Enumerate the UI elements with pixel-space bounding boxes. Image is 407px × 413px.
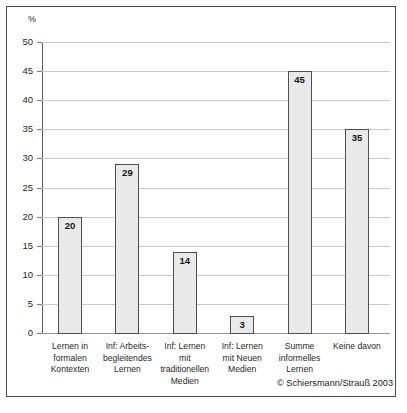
gridline — [42, 42, 390, 43]
bar-value-label: 35 — [345, 132, 369, 143]
x-axis-category-label: Lernen informalenKontexten — [40, 341, 100, 376]
chart-page: % 5045403530252015105020Lernen informale… — [0, 0, 407, 413]
x-axis-label-line: Medien — [212, 364, 272, 376]
x-axis-category-label: SummeinformellesLernen — [270, 341, 330, 376]
x-axis-label-line: Keine davon — [327, 341, 387, 353]
y-axis-tick-label: 35 — [7, 123, 33, 134]
gridline — [42, 304, 390, 305]
y-axis-tick-label: 20 — [7, 211, 33, 222]
y-axis-tick-mark — [37, 333, 42, 334]
copyright-credit: © Schiersmann/Strauß 2003 — [277, 378, 393, 388]
bar-value-label: 14 — [173, 255, 197, 266]
y-axis-tick-label: 30 — [7, 152, 33, 163]
y-axis-tick-mark — [37, 42, 42, 43]
x-axis-label-line: Inf: Lernen — [155, 341, 215, 353]
bar-value-label: 20 — [58, 220, 82, 231]
y-axis-tick-label: 40 — [7, 94, 33, 105]
bar — [345, 129, 369, 334]
x-axis-label-line: traditionellen — [155, 364, 215, 376]
bar — [288, 71, 312, 334]
x-axis-label-line: Summe — [270, 341, 330, 353]
y-axis-tick-mark — [37, 71, 42, 72]
y-axis-tick-mark — [37, 129, 42, 130]
x-axis-category-label: Inf: Arbeits-begleitendesLernen — [97, 341, 157, 376]
x-axis-label-line: mit — [155, 353, 215, 365]
x-axis-label-line: Inf: Lernen — [212, 341, 272, 353]
bar — [58, 217, 82, 334]
gridline — [42, 246, 390, 247]
x-axis-category-label: Keine davon — [327, 341, 387, 353]
gridline — [42, 100, 390, 101]
gridline — [42, 275, 390, 276]
gridline — [42, 333, 390, 334]
x-axis-category-label: Inf: LernenmittraditionellenMedien — [155, 341, 215, 387]
y-axis-tick-label: 45 — [7, 65, 33, 76]
x-axis-label-line: Lernen — [97, 364, 157, 376]
gridline — [42, 71, 390, 72]
x-axis-label-line: informelles — [270, 353, 330, 365]
x-axis-label-line: begleitendes — [97, 353, 157, 365]
y-axis-tick-mark — [37, 246, 42, 247]
gridline — [42, 188, 390, 189]
x-axis-label-line: Lernen in — [40, 341, 100, 353]
y-axis-unit-label: % — [28, 14, 36, 24]
y-axis-tick-label: 15 — [7, 240, 33, 251]
gridline — [42, 129, 390, 130]
x-axis-label-line: formalen — [40, 353, 100, 365]
y-axis-tick-label: 50 — [7, 36, 33, 47]
y-axis-tick-label: 5 — [7, 298, 33, 309]
y-axis-tick-mark — [37, 304, 42, 305]
y-axis-tick-mark — [37, 275, 42, 276]
y-axis-tick-mark — [37, 188, 42, 189]
gridline — [42, 217, 390, 218]
y-axis-tick-mark — [37, 217, 42, 218]
x-axis-label-line: Medien — [155, 376, 215, 388]
x-axis-label-line: Lernen — [270, 364, 330, 376]
bar — [115, 164, 139, 334]
x-axis-label-line: Inf: Arbeits- — [97, 341, 157, 353]
x-axis-label-line: mit Neuen — [212, 353, 272, 365]
bar-value-label: 45 — [288, 74, 312, 85]
y-axis-tick-label: 0 — [7, 327, 33, 338]
bar-value-label: 3 — [230, 319, 254, 330]
x-axis-label-line: Kontexten — [40, 364, 100, 376]
y-axis-tick-label: 10 — [7, 269, 33, 280]
plot-area: % 5045403530252015105020Lernen informale… — [0, 0, 407, 413]
y-axis-tick-label: 25 — [7, 182, 33, 193]
bar-value-label: 29 — [115, 167, 139, 178]
y-axis-tick-mark — [37, 158, 42, 159]
x-axis-category-label: Inf: Lernenmit NeuenMedien — [212, 341, 272, 376]
gridline — [42, 158, 390, 159]
y-axis-tick-mark — [37, 100, 42, 101]
